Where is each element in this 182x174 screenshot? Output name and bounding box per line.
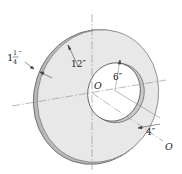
thickness-label-unit: ″	[19, 50, 22, 58]
offset-label: 4″	[146, 127, 156, 137]
disk-figure: 1 1 4 ″ 12″ 6″ O 4″ O	[0, 0, 182, 174]
axis-label: O	[165, 141, 173, 152]
thickness-label-den: 4	[13, 58, 17, 66]
center-label: O	[94, 80, 102, 91]
outer-radius-label: 12″	[71, 59, 86, 69]
hole-radius-label: 6″	[113, 72, 123, 82]
thickness-label-num: 1	[13, 49, 17, 57]
